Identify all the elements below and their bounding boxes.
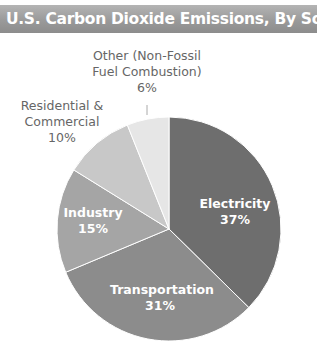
- label-residential-pct: 10%: [16, 130, 108, 146]
- label-other-line2: Fuel Combustion): [88, 64, 206, 80]
- label-industry-name: Industry: [58, 205, 128, 221]
- label-other: Other (Non-Fossil Fuel Combustion) 6%: [88, 48, 206, 96]
- label-other-line1: Other (Non-Fossil: [88, 48, 206, 64]
- label-residential-line1: Residential &: [16, 98, 108, 114]
- label-transportation-name: Transportation: [110, 282, 210, 298]
- label-electricity-pct: 37%: [195, 212, 275, 228]
- label-transportation: Transportation 31%: [110, 282, 210, 314]
- label-residential: Residential & Commercial 10%: [16, 98, 108, 146]
- label-industry: Industry 15%: [58, 205, 128, 237]
- label-other-pct: 6%: [88, 80, 206, 96]
- label-electricity: Electricity 37%: [195, 196, 275, 228]
- label-residential-line2: Commercial: [16, 114, 108, 130]
- label-industry-pct: 15%: [58, 221, 128, 237]
- label-transportation-pct: 31%: [110, 298, 210, 314]
- label-electricity-name: Electricity: [195, 196, 275, 212]
